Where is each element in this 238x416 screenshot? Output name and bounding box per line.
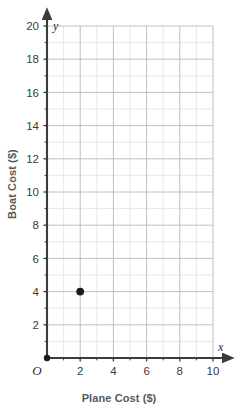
x-tick-label: 8: [177, 365, 183, 377]
y-tick-label: 8: [33, 219, 39, 231]
x-tick-label: 10: [207, 365, 220, 377]
y-axis-title: Boat Cost ($): [6, 124, 18, 244]
x-tick-label: 4: [110, 365, 117, 377]
y-tick-label: 6: [33, 253, 39, 265]
y-axis-variable-label: y: [52, 19, 59, 33]
origin-point-marker: [44, 355, 50, 361]
y-tick-label: 16: [26, 87, 39, 99]
x-tick-label: 2: [77, 365, 83, 377]
origin-label: O: [32, 363, 42, 378]
y-tick-label: 14: [26, 120, 39, 132]
y-tick-label: 2: [33, 319, 39, 331]
data-point-marker[interactable]: [76, 288, 84, 296]
coordinate-plane-chart: 2468102468101214161820yxO Plane Cost ($)…: [0, 0, 238, 416]
x-tick-label: 6: [143, 365, 149, 377]
y-tick-label: 10: [26, 186, 39, 198]
y-tick-label: 20: [26, 20, 39, 32]
plot-area: 2468102468101214161820yxO: [0, 0, 238, 416]
tick-marks: [44, 26, 214, 362]
y-tick-label: 4: [33, 286, 40, 298]
x-axis-title: Plane Cost ($): [0, 392, 238, 404]
y-tick-label: 12: [26, 153, 39, 165]
tick-labels: 2468102468101214161820yxO: [26, 19, 224, 378]
y-tick-label: 18: [26, 53, 39, 65]
x-axis-variable-label: x: [217, 340, 224, 354]
